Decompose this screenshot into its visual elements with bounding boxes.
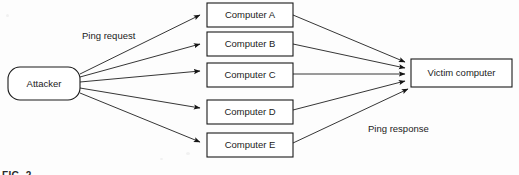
- victim-computer-label: Victim computer: [428, 67, 496, 78]
- edge-computer-a-to-victim: [293, 15, 405, 62]
- diagram-canvas: Attacker Computer A Computer B Computer …: [0, 0, 519, 175]
- node-computer-d: Computer D: [207, 100, 293, 124]
- node-computer-b: Computer B: [207, 32, 293, 56]
- computer-b-label: Computer B: [225, 38, 276, 49]
- node-computer-a: Computer A: [207, 3, 293, 27]
- computer-d-label: Computer D: [224, 106, 275, 117]
- edge-computer-b-to-victim: [293, 44, 405, 68]
- ping-request-label: Ping request: [82, 30, 136, 41]
- network-attack-diagram: Attacker Computer A Computer B Computer …: [0, 0, 519, 175]
- edge-computer-d-to-victim: [293, 81, 405, 110]
- node-attacker: Attacker: [8, 67, 80, 100]
- figure-caption: FIG. 2: [2, 170, 32, 175]
- edge-attacker-to-computer-d: [80, 88, 200, 108]
- edge-attacker-to-computer-a: [80, 15, 200, 74]
- node-victim-computer: Victim computer: [411, 59, 512, 87]
- node-computer-e: Computer E: [207, 133, 293, 157]
- edge-computer-e-to-victim: [293, 89, 408, 143]
- node-computer-c: Computer C: [207, 63, 293, 87]
- edge-attacker-to-computer-e: [80, 93, 200, 142]
- edge-attacker-to-computer-b: [80, 44, 200, 77]
- attacker-label: Attacker: [27, 78, 62, 89]
- computer-c-label: Computer C: [224, 69, 275, 80]
- ping-response-label: Ping response: [368, 123, 429, 134]
- computer-a-label: Computer A: [225, 9, 276, 20]
- edge-attacker-to-computer-c: [80, 71, 200, 82]
- computer-e-label: Computer E: [225, 139, 276, 150]
